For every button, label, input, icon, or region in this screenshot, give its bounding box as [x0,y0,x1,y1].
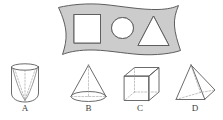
option-label-b: B [77,104,101,113]
option-label-d: D [183,104,207,113]
option-label-a: A [13,104,37,113]
geometry-figure: A B C D [0,0,223,120]
square-pyramid-icon [176,65,215,100]
option-d-shape-svg [0,0,223,120]
option-label-c: C [128,104,152,113]
